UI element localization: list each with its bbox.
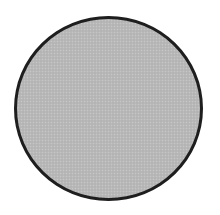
gray-circle-shape	[14, 16, 203, 201]
canvas	[0, 0, 220, 215]
